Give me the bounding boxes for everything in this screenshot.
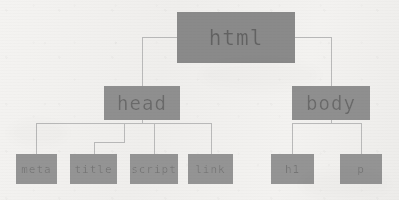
edge-body-p-vertical bbox=[361, 123, 362, 154]
node-h1[interactable]: h1 bbox=[271, 154, 314, 184]
edge-html-body-horizontal bbox=[295, 37, 331, 38]
node-head[interactable]: head bbox=[104, 86, 180, 120]
edge-html-body-vertical bbox=[331, 37, 332, 86]
node-body[interactable]: body bbox=[292, 86, 370, 120]
edge-head-meta-vertical bbox=[36, 123, 37, 154]
edge-head-title-step-across bbox=[94, 142, 125, 143]
edge-html-head-horizontal bbox=[142, 37, 178, 38]
edge-html-head-vertical bbox=[142, 37, 143, 86]
node-title[interactable]: title bbox=[70, 154, 117, 184]
node-script[interactable]: script bbox=[130, 154, 178, 184]
diagram-canvas: html head body meta title script link h1… bbox=[0, 0, 399, 200]
node-h1-label: h1 bbox=[285, 163, 300, 176]
node-link[interactable]: link bbox=[188, 154, 233, 184]
edge-body-bus-stem bbox=[331, 120, 332, 124]
edge-head-title-step-down bbox=[124, 123, 125, 142]
edge-head-title-vertical bbox=[94, 142, 95, 154]
node-meta[interactable]: meta bbox=[16, 154, 57, 184]
node-p[interactable]: p bbox=[340, 154, 382, 184]
edge-head-link-vertical bbox=[211, 123, 212, 154]
edge-head-bus-stem bbox=[142, 120, 143, 124]
edge-body-h1-vertical bbox=[292, 123, 293, 154]
node-meta-label: meta bbox=[21, 163, 52, 176]
node-body-label: body bbox=[306, 92, 356, 114]
node-html-label: html bbox=[209, 26, 264, 50]
node-p-label: p bbox=[357, 163, 365, 176]
node-title-label: title bbox=[74, 163, 112, 176]
node-link-label: link bbox=[195, 163, 226, 176]
node-script-label: script bbox=[131, 163, 177, 176]
node-html[interactable]: html bbox=[177, 12, 295, 63]
edge-head-script-vertical bbox=[154, 123, 155, 154]
edge-body-bus bbox=[292, 123, 362, 124]
node-head-label: head bbox=[117, 92, 167, 114]
